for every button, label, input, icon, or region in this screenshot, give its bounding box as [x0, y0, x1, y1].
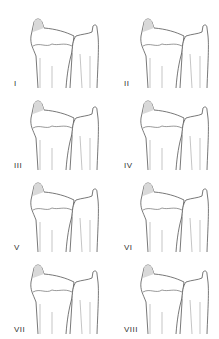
panel-2: II	[110, 6, 219, 88]
panel-label: III	[14, 161, 22, 170]
wrist-bone-illustration	[110, 170, 219, 252]
wrist-bone-illustration	[0, 88, 110, 170]
panel-1: I	[0, 6, 110, 88]
panel-label: VII	[14, 325, 25, 334]
panel-label: IV	[124, 161, 133, 170]
panel-label: VIII	[124, 325, 138, 334]
wrist-bone-illustration	[0, 6, 110, 88]
wrist-bone-illustration	[0, 252, 110, 334]
panel-4: IV	[110, 88, 219, 170]
wrist-bone-illustration	[110, 252, 219, 334]
panel-7: VII	[0, 252, 110, 334]
panel-5: V	[0, 170, 110, 252]
panel-3: III	[0, 88, 110, 170]
wrist-bone-illustration	[110, 6, 219, 88]
wrist-bone-illustration	[0, 170, 110, 252]
panel-8: VIII	[110, 252, 219, 334]
panel-label: VI	[124, 243, 133, 252]
panel-label: V	[14, 243, 20, 252]
wrist-bone-illustration	[110, 88, 219, 170]
panel-label: II	[124, 79, 129, 88]
panel-label: I	[14, 79, 17, 88]
panel-6: VI	[110, 170, 219, 252]
